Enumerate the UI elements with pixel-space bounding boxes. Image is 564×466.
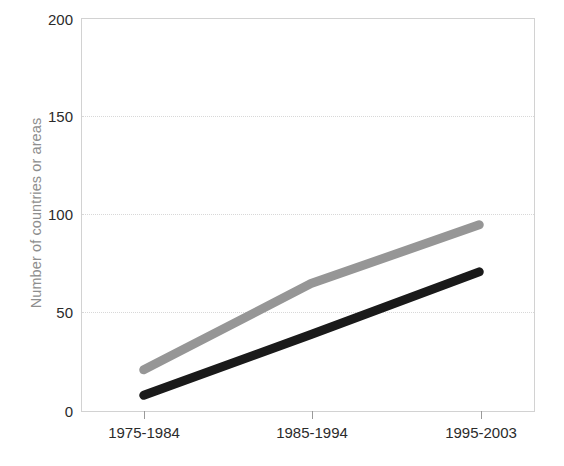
y-tick-label-150: 150: [48, 108, 73, 125]
y-tick-label-100: 100: [48, 206, 73, 223]
y-tick-label-0: 0: [65, 403, 73, 420]
y-tick-label-200: 200: [48, 11, 73, 28]
x-tick-label-1995-2003: 1995-2003: [445, 424, 517, 441]
line-chart: Number of countries or areas 200 150 100…: [0, 0, 564, 466]
plot-area: 200 150 100 50 0 1975-1984 1985-1994 199…: [81, 18, 535, 412]
series-layer: [82, 19, 534, 411]
x-tick-label-1975-1984: 1975-1984: [108, 424, 180, 441]
x-tick-mark-1975-1984: [144, 411, 145, 419]
x-tick-mark-1995-2003: [481, 411, 482, 419]
line-series-gray: [144, 225, 480, 370]
line-series-black: [144, 272, 480, 395]
x-tick-mark-1985-1994: [312, 411, 313, 419]
y-tick-label-50: 50: [56, 304, 73, 321]
x-tick-label-1985-1994: 1985-1994: [276, 424, 348, 441]
y-axis-title: Number of countries or areas: [28, 83, 44, 343]
